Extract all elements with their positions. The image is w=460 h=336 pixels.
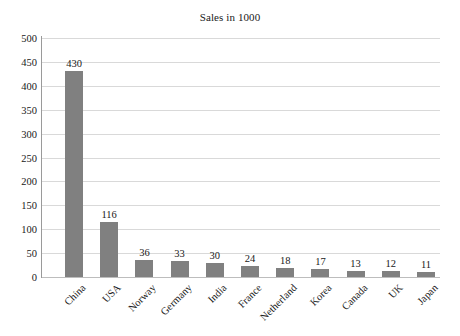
- y-axis-tick-label: 250: [21, 152, 37, 163]
- x-axis-category-label[interactable]: Netherland: [258, 282, 299, 323]
- x-axis-label-text: Germany: [158, 282, 193, 317]
- x-axis-label-text: Norway: [126, 282, 158, 314]
- gridline: [42, 277, 440, 278]
- y-axis-tick-label: 350: [21, 104, 37, 115]
- x-axis-label-text: UK: [386, 282, 405, 301]
- gridline: [42, 62, 440, 63]
- bar[interactable]: 36: [135, 260, 153, 277]
- gridline: [42, 158, 440, 159]
- x-axis-label-text: China: [62, 282, 88, 308]
- bar-value-label: 33: [174, 248, 185, 259]
- x-axis-label-text: Japan: [415, 282, 440, 307]
- bar-value-label: 36: [139, 247, 150, 258]
- y-axis-tick-label: 100: [21, 224, 37, 235]
- gridline: [42, 205, 440, 206]
- bar-value-label: 30: [210, 250, 221, 261]
- bar-value-label: 12: [386, 258, 397, 269]
- x-axis-category-label[interactable]: Korea: [308, 282, 334, 308]
- bar[interactable]: 13: [347, 271, 365, 277]
- bar-value-label: 18: [280, 255, 291, 266]
- y-axis-tick-label: 450: [21, 56, 37, 67]
- gridline: [42, 110, 440, 111]
- y-axis-tick-label: 50: [27, 248, 38, 259]
- bar[interactable]: 430: [65, 71, 83, 277]
- x-axis-label-text: France: [236, 282, 264, 310]
- bar-value-label: 13: [350, 258, 361, 269]
- x-axis-category-label[interactable]: France: [236, 282, 264, 310]
- bar[interactable]: 33: [171, 261, 189, 277]
- y-axis-tick-label: 500: [21, 33, 37, 44]
- x-axis-label-text: India: [206, 282, 229, 305]
- y-axis-tick-label: 300: [21, 128, 37, 139]
- bar[interactable]: 18: [276, 268, 294, 277]
- bar-value-label: 116: [102, 209, 117, 220]
- gridline: [42, 181, 440, 182]
- x-axis-label-text: Netherland: [258, 282, 299, 323]
- plot-area: 500450400350300250200150100500 430116363…: [42, 38, 440, 277]
- x-axis-label-text: Canada: [339, 282, 369, 312]
- bar[interactable]: 30: [206, 263, 224, 277]
- gridline: [42, 38, 440, 39]
- x-axis-category-label[interactable]: Japan: [415, 282, 440, 307]
- chart-title: Sales in 1000: [0, 11, 460, 23]
- bar-value-label: 17: [315, 256, 326, 267]
- x-axis-category-label[interactable]: Canada: [339, 282, 369, 312]
- x-axis-category-label[interactable]: UK: [386, 282, 405, 301]
- bar[interactable]: 12: [382, 271, 400, 277]
- x-axis-category-label[interactable]: India: [206, 282, 229, 305]
- x-axis-category-label[interactable]: Germany: [158, 282, 193, 317]
- bar[interactable]: 11: [417, 272, 435, 277]
- y-axis-tick-label: 150: [21, 200, 37, 211]
- y-axis-tick-label: 0: [32, 272, 37, 283]
- gridline: [42, 86, 440, 87]
- bar-value-label: 430: [66, 58, 82, 69]
- x-axis-category-label[interactable]: Norway: [126, 282, 158, 314]
- x-axis-category-label[interactable]: China: [62, 282, 88, 308]
- bar[interactable]: 24: [241, 266, 259, 277]
- x-axis-category-label[interactable]: USA: [100, 282, 123, 305]
- x-axis-label-text: USA: [100, 282, 123, 305]
- y-axis-tick-label: 200: [21, 176, 37, 187]
- bar-value-label: 24: [245, 253, 256, 264]
- x-axis-label-text: Korea: [308, 282, 334, 308]
- bar-value-label: 11: [421, 259, 431, 270]
- y-axis-tick-label: 400: [21, 80, 37, 91]
- gridline: [42, 134, 440, 135]
- bar-chart: Sales in 1000 50045040035030025020015010…: [0, 0, 460, 336]
- bar[interactable]: 17: [311, 269, 329, 277]
- bar[interactable]: 116: [100, 222, 118, 277]
